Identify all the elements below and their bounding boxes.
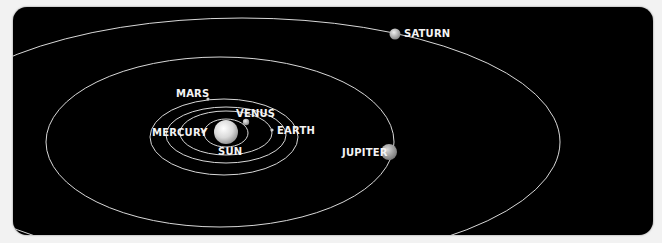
solar-system-panel: SUN MERCURY VENUS EARTH MARS JUPITER SAT… [13,7,653,235]
sun [214,120,238,144]
earth-label: EARTH [277,125,315,136]
venus-label: VENUS [236,108,275,119]
mercury-label: MERCURY [152,127,208,138]
saturn-planet [390,29,401,40]
venus-planet [243,119,249,125]
solar-system-diagram: SUN MERCURY VENUS EARTH MARS JUPITER SAT… [13,7,653,235]
saturn-label: SATURN [404,28,450,39]
mars-label: MARS [176,88,209,99]
jupiter-label: JUPITER [341,147,388,158]
earth-planet [270,128,273,131]
sun-label: SUN [218,146,242,157]
